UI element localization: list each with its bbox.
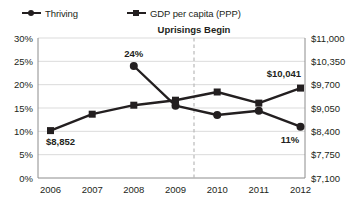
y-axis-tick-right-1: $7,750 (311, 149, 340, 160)
data-point-gdp-2010 (214, 89, 221, 96)
data-point-thriving-2011 (255, 107, 263, 115)
data-label-gdp-2006: $8,852 (46, 136, 75, 147)
x-axis-tick-2011: 2011 (249, 184, 269, 195)
y-axis-tick-left-0: 0% (19, 173, 33, 184)
x-axis-tick-2009: 2009 (165, 184, 186, 195)
x-axis-tick-2012: 2012 (290, 184, 311, 195)
x-axis-tick-2006: 2006 (40, 184, 61, 195)
chart-legend: Thriving GDP per capita (PPP) (0, 0, 355, 26)
data-point-thriving-2012 (297, 123, 305, 131)
y-axis-tick-left-6: 30% (14, 33, 34, 44)
data-label-gdp-2012: $10,041 (267, 68, 302, 79)
x-axis-tick-2007: 2007 (82, 184, 103, 195)
y-axis-tick-left-2: 10% (14, 126, 34, 137)
y-axis-tick-right-5: $10,350 (311, 56, 345, 67)
legend-item-thriving[interactable]: Thriving (22, 0, 78, 26)
legend-item-gdp-per-capita[interactable]: GDP per capita (PPP) (127, 0, 241, 26)
data-point-gdp-2012 (297, 85, 304, 92)
annotation-uprisings-begin: Uprisings Begin (158, 26, 231, 35)
gridlines (38, 38, 305, 155)
data-point-thriving-2010 (213, 111, 221, 119)
chart-root: Thriving GDP per capita (PPP) (0, 0, 355, 197)
data-point-thriving-2009 (172, 102, 180, 110)
chart-plot-area: Uprisings Begin (0, 26, 355, 197)
x-axis-tick-2008: 2008 (123, 184, 144, 195)
data-point-gdp-2008 (130, 102, 137, 109)
data-label-thriving-2008: 24% (124, 48, 144, 59)
y-axis-tick-left-3: 15% (14, 103, 34, 114)
data-point-gdp-2006 (47, 127, 54, 134)
chart-svg: Uprisings Begin (0, 26, 355, 197)
legend-label-gdp-per-capita: GDP per capita (PPP) (150, 8, 241, 19)
square-marker-icon (127, 8, 146, 18)
data-point-thriving-2008 (130, 62, 138, 70)
circle-marker-icon (22, 8, 41, 18)
legend-label-thriving: Thriving (45, 8, 78, 19)
x-axis-tick-2010: 2010 (207, 184, 228, 195)
data-label-thriving-2012: 11% (281, 134, 300, 145)
y-axis-tick-right-0: $7,100 (311, 173, 340, 184)
y-axis-tick-left-4: 20% (14, 79, 34, 90)
y-axis-tick-right-2: $8,400 (311, 126, 340, 137)
data-point-gdp-2007 (89, 111, 96, 118)
y-axis-tick-left-5: 25% (14, 56, 34, 67)
y-axis-tick-right-3: $9,050 (311, 103, 340, 114)
data-point-gdp-2011 (255, 100, 262, 107)
y-axis-tick-right-4: $9,700 (311, 79, 340, 90)
y-axis-tick-left-1: 5% (19, 149, 33, 160)
y-axis-tick-right-6: $11,000 (311, 33, 345, 44)
